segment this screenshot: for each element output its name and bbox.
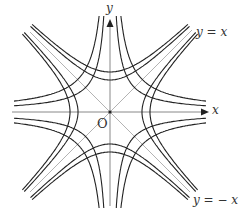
- origin-point: [108, 110, 111, 113]
- origin-label: O: [97, 117, 108, 130]
- line-y-equals-minus-x-label: y = − x: [193, 194, 238, 206]
- y-axis-label: y: [106, 2, 113, 14]
- x-axis-arrow-icon: [201, 109, 209, 116]
- line-y-equals-x-label: y = x: [196, 26, 227, 38]
- x-axis-label: x: [212, 104, 219, 116]
- y-axis-arrow-icon: [107, 19, 114, 27]
- coordinate-axes: [12, 19, 209, 206]
